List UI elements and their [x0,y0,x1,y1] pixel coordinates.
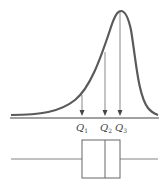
q3-label: Q3 [115,122,127,134]
skewed-distribution-diagram: Q1 Q2 Q3 [0,0,167,190]
box [82,140,120,178]
q1-arrow [80,95,85,116]
q3-arrow [118,12,123,116]
q2-arrow [103,52,108,116]
q2-label: Q2 [100,122,112,134]
q1-label: Q1 [76,122,88,134]
density-curve [11,11,158,115]
